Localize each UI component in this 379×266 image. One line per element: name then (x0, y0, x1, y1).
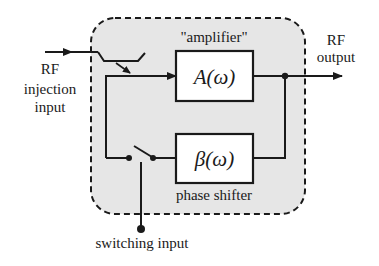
input-label-line2: injection (24, 81, 77, 97)
phase-shifter-caption: phase shifter (176, 187, 252, 203)
enclosure-label: "amplifier" (180, 29, 247, 45)
amplifier-enclosure (91, 18, 305, 214)
rf-oscillator-diagram: "amplifier" A(ω) β(ω) phase shifter swit… (0, 0, 379, 266)
switching-input-label: switching input (96, 235, 190, 251)
input-label-line1: RF (41, 61, 59, 77)
output-label-line2: output (317, 49, 356, 65)
switching-input-terminal (137, 225, 145, 233)
phase-shifter-label: β(ω) (194, 147, 234, 171)
switch-contact-left (126, 155, 132, 161)
amplifier-label: A(ω) (192, 65, 236, 89)
input-label-line3: input (35, 99, 67, 115)
output-label-line1: RF (327, 32, 345, 48)
